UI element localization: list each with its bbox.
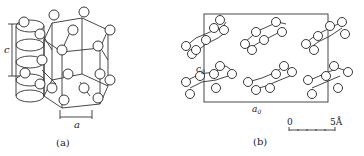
panel-b-atoms [182,16,353,99]
panel-a-axis-c: c [4,44,10,55]
panel-b-axis-a: a0 [252,104,261,115]
panel-b-label: (b) [253,136,267,147]
scale-bar-end: 5Å [330,116,343,127]
scale-bar-start: 0 [287,117,293,127]
panel-a-axis-a: a [74,119,80,130]
panel-a-label: (a) [56,137,70,148]
figure-drawing: c a [0,0,364,156]
crystal-structure-figure: c a [0,0,364,156]
